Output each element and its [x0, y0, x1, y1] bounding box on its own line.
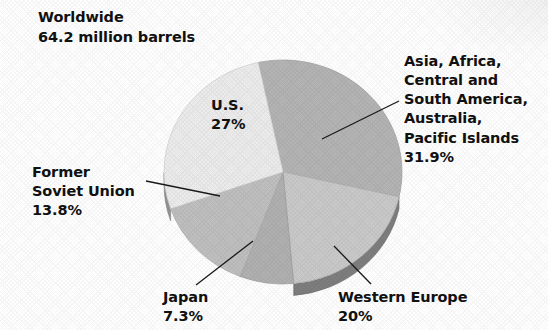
slice-label-former-soviet-union: Former Soviet Union 13.8%: [32, 163, 135, 220]
slice-label-us: U.S. 27%: [211, 96, 245, 134]
pie-chart-figure: Worldwide64.2 million barrels Asia, Afri…: [0, 0, 548, 330]
slice-label-japan: Japan 7.3%: [163, 288, 208, 326]
pie-slices: [164, 60, 402, 284]
slice-label-asia: Asia, Africa, Central and South America,…: [404, 52, 528, 167]
slice-label-western-europe: Western Europe 20%: [338, 288, 467, 326]
